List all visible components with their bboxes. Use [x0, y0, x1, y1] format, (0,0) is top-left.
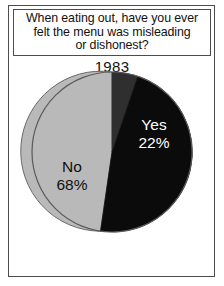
pie-label-no-value: 68%	[56, 176, 87, 193]
pie-label-yes-value: 22%	[138, 134, 169, 151]
pie-label-yes-name: Yes	[141, 116, 167, 133]
pie-label-no-name: No	[62, 158, 82, 175]
pie-svg: Yes 22% No 68%	[0, 0, 224, 286]
chart-area: Yes 22% No 68%	[0, 0, 224, 286]
pie-chart-figure: When eating out, have you ever felt the …	[0, 0, 224, 286]
pie-slice-no[interactable]	[21, 71, 112, 231]
